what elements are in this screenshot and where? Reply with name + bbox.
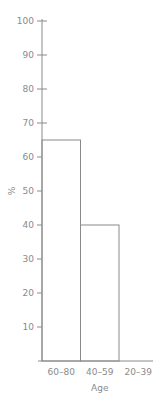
bar bbox=[81, 225, 120, 361]
x-axis-tick-labels: 60–8040–5920–39 bbox=[48, 367, 153, 377]
y-tick-label: 20 bbox=[23, 288, 35, 298]
x-tick-label: 20–39 bbox=[125, 367, 153, 377]
y-tick-label: 70 bbox=[23, 118, 35, 128]
x-axis-title: Age bbox=[91, 383, 109, 393]
bar bbox=[42, 140, 81, 361]
x-tick-label: 40–59 bbox=[86, 367, 114, 377]
y-axis-title: % bbox=[7, 186, 17, 195]
y-tick-label: 40 bbox=[23, 220, 35, 230]
bars bbox=[42, 140, 119, 361]
y-tick-label: 80 bbox=[23, 84, 35, 94]
y-tick-label: 50 bbox=[23, 186, 35, 196]
y-tick-label: 30 bbox=[23, 254, 35, 264]
y-tick-label: 90 bbox=[23, 50, 35, 60]
x-tick-label: 60–80 bbox=[48, 367, 76, 377]
bar-chart: 102030405060708090100 60–8040–5920–39 Ag… bbox=[0, 0, 162, 410]
y-tick-label: 100 bbox=[17, 16, 34, 26]
y-tick-label: 10 bbox=[23, 322, 35, 332]
y-tick-label: 60 bbox=[23, 152, 35, 162]
